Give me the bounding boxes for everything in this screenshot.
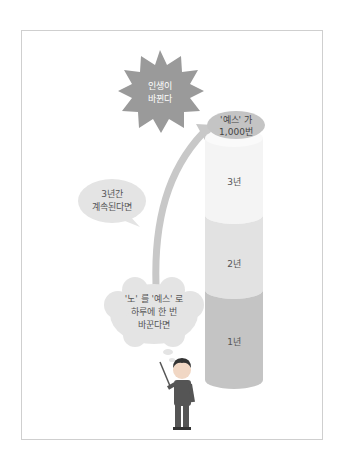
cylinder-top-label-line1: '예스' 가 (206, 114, 266, 126)
diagram-graphics (0, 0, 347, 469)
teacher-character-icon (160, 358, 193, 430)
segment-label-year3: 3년 (214, 176, 254, 188)
starburst-text-line2: 바뀐다 (136, 93, 184, 105)
bubble-bottom-line3: 바꾼다면 (110, 319, 198, 331)
bubble-middle-line2: 계속된다면 (78, 201, 146, 213)
bubble-bottom-line1: '노' 를 '예스' 로 (110, 293, 198, 305)
segment-label-year1: 1년 (214, 336, 254, 348)
bubble-middle-line1: 3년간 (78, 188, 146, 200)
segment-label-year2: 2년 (214, 258, 254, 270)
cylinder-top-label-line2: 1,000번 (206, 126, 266, 138)
starburst-text-line1: 인생이 (136, 80, 184, 92)
bubble-bottom-line2: 하루에 한 번 (110, 306, 198, 318)
